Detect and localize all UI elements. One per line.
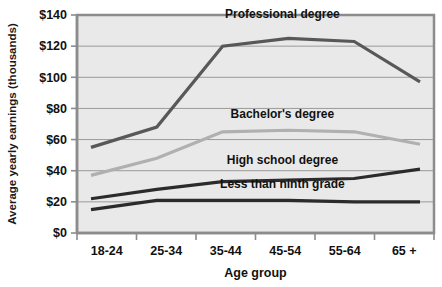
earnings-by-age-line-chart: $0$20$40$60$80$100$120$140Average yearly…: [0, 0, 442, 287]
x-tick-label-1: 25-34: [150, 244, 182, 258]
y-tick-label-120: $120: [39, 39, 67, 53]
series-label-1: Bachelor's degree: [231, 107, 335, 121]
y-axis-title: Average yearly earnings (thousands): [6, 23, 18, 225]
x-axis-title: Age group: [224, 266, 287, 280]
y-tick-label-80: $80: [46, 102, 67, 116]
y-tick-label-20: $20: [46, 195, 67, 209]
series-label-3: Less than ninth grade: [220, 177, 345, 191]
y-tick-label-60: $60: [46, 133, 67, 147]
y-tick-label-0: $0: [53, 226, 67, 240]
y-tick-label-140: $140: [39, 8, 67, 22]
chart-canvas: $0$20$40$60$80$100$120$140Average yearly…: [0, 0, 442, 287]
series-label-2: High school degree: [227, 153, 339, 167]
series-label-0: Professional degree: [225, 7, 340, 21]
y-tick-label-100: $100: [39, 71, 67, 85]
x-tick-label-2: 35-44: [210, 244, 242, 258]
x-tick-label-4: 55-64: [329, 244, 361, 258]
y-tick-label-40: $40: [46, 164, 67, 178]
x-tick-label-5: 65 +: [392, 244, 417, 258]
x-tick-label-0: 18-24: [91, 244, 123, 258]
x-tick-label-3: 45-54: [269, 244, 301, 258]
